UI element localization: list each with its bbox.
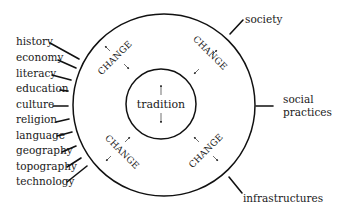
label-religion: religion [16,113,57,125]
change-label: CHANGE [187,132,225,170]
tradition-center: tradition [137,85,185,123]
label-history: history [16,35,53,47]
label-geography: geography [16,144,73,156]
label-culture: culture [16,98,54,110]
arrow-inward-icon [125,137,130,142]
tradition-label: tradition [137,98,185,111]
connector-line-education [60,90,68,91]
label-technology: technology [16,175,75,187]
tradition-change-diagram: tradition CHANGE CHANGE CHANGE CHANGE [0,0,338,211]
change-lower-left: CHANGE [103,133,141,171]
arrow-outward-icon [106,156,111,161]
label-education: education [16,82,69,94]
arrow-inward-icon [194,69,199,74]
change-lower-right: CHANGE [187,132,225,170]
change-label: CHANGE [96,39,134,77]
change-upper-right: CHANGE [191,34,229,74]
connector-line-religion [56,119,69,122]
label-economy: economy [16,51,63,63]
connector-line-society [230,20,243,34]
left-labels: historyeconomyliteracyeducationculturere… [16,35,87,187]
connector-line-economy [58,60,76,68]
label-literacy: literacy [16,67,56,79]
arrow-inward-icon [124,64,129,69]
change-label: CHANGE [191,34,229,72]
label-infrastructures: infrastructures [243,192,323,204]
arrow-outward-icon [105,46,110,51]
connector-line-infrastructures [229,177,242,193]
change-label: CHANGE [103,133,141,171]
label-society: society [245,13,282,25]
label-social-practices: socialpractices [283,93,332,118]
arrow-outward-icon [213,156,218,161]
arrow-inward-icon [194,137,199,142]
right-labels: societysocialpracticesinfrastructures [229,13,332,204]
change-upper-left: CHANGE [96,39,134,77]
